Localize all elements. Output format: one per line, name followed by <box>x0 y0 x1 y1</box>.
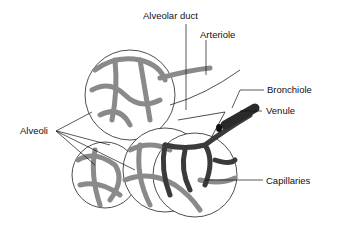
label-alveoli: Alveoli <box>20 126 48 136</box>
label-bronchiole: Bronchiole <box>267 85 312 95</box>
label-capillaries: Capillaries <box>266 176 310 186</box>
alveoli-diagram: Alveolar duct Arteriole Bronchiole Venul… <box>0 0 337 229</box>
label-arteriole: Arteriole <box>200 30 235 40</box>
label-venule: Venule <box>266 106 295 116</box>
leader-alveoli-1 <box>56 112 92 131</box>
label-alveolar-duct: Alveolar duct <box>143 11 198 21</box>
